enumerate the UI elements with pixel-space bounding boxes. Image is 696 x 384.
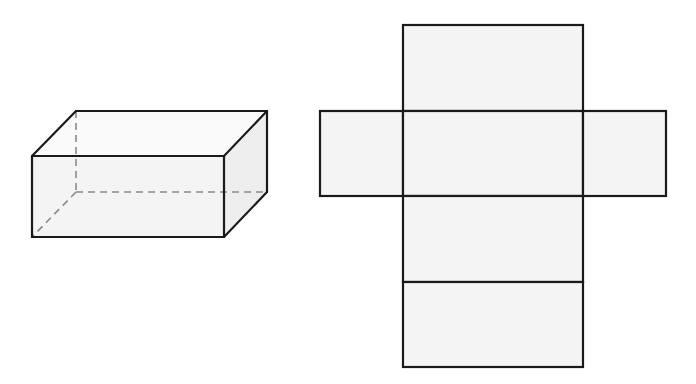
net-center-face	[403, 111, 583, 196]
rectangular-prism	[32, 111, 267, 237]
diagram-canvas	[0, 0, 696, 384]
prism-net	[320, 25, 666, 367]
net-bottom-face	[403, 282, 583, 367]
net-top-face	[403, 25, 583, 111]
net-lower-face	[403, 196, 583, 282]
prism-front-face	[32, 156, 224, 237]
net-left-face	[320, 111, 403, 196]
net-right-face	[583, 111, 666, 196]
